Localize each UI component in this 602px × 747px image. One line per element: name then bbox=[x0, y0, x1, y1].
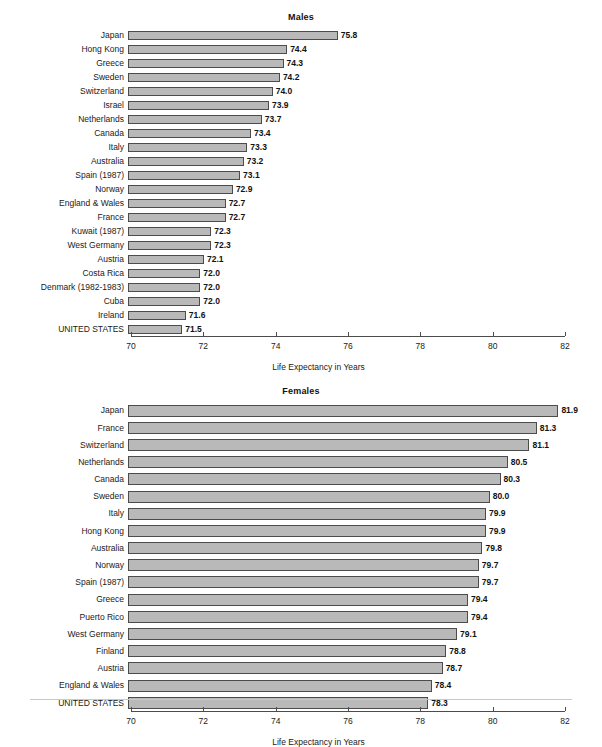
bar-row: Spain (1987)79.7 bbox=[0, 574, 602, 591]
bar-cell: 75.8 bbox=[128, 31, 602, 40]
bar-category-label: West Germany bbox=[0, 241, 128, 250]
bar-row: Italy79.9 bbox=[0, 505, 602, 522]
bar-row: Norway79.7 bbox=[0, 557, 602, 574]
bar-row: Austria72.1 bbox=[0, 252, 602, 266]
bar-value-label: 72.0 bbox=[203, 269, 220, 278]
bar bbox=[128, 611, 468, 623]
bar-cell: 72.0 bbox=[128, 297, 602, 306]
x-axis-title-females: Life Expectancy in Years bbox=[0, 737, 602, 747]
bar-cell: 79.1 bbox=[128, 628, 602, 640]
bar-category-label: England & Wales bbox=[0, 681, 128, 690]
bar-row: West Germany79.1 bbox=[0, 625, 602, 642]
bar-value-label: 79.4 bbox=[471, 595, 488, 604]
bar-category-label: Costa Rica bbox=[0, 269, 128, 278]
bar-category-label: Kuwait (1987) bbox=[0, 227, 128, 236]
bar-cell: 80.3 bbox=[128, 473, 602, 485]
bar-cell: 80.5 bbox=[128, 456, 602, 468]
bar bbox=[128, 628, 457, 640]
bar bbox=[128, 594, 468, 606]
bar bbox=[128, 45, 287, 54]
bar-cell: 73.7 bbox=[128, 115, 602, 124]
chart-title-males: Males bbox=[0, 12, 602, 22]
bar bbox=[128, 241, 211, 250]
bar-cell: 78.8 bbox=[128, 645, 602, 657]
bar-category-label: Canada bbox=[0, 475, 128, 484]
bar-cell: 74.3 bbox=[128, 59, 602, 68]
bar-row: Switzerland74.0 bbox=[0, 84, 602, 98]
axis-tick-label: 80 bbox=[488, 716, 497, 726]
x-axis-females: 70727476788082 bbox=[0, 711, 602, 737]
bar bbox=[128, 283, 200, 292]
axis-tick bbox=[565, 707, 566, 711]
chart-title-females: Females bbox=[0, 386, 602, 396]
bar-row: Netherlands80.5 bbox=[0, 454, 602, 471]
axis-tick-label: 76 bbox=[343, 716, 352, 726]
x-axis-males: 70727476788082 bbox=[0, 336, 602, 362]
bar-category-label: Greece bbox=[0, 59, 128, 68]
bar-category-label: Greece bbox=[0, 595, 128, 604]
bar bbox=[128, 576, 479, 588]
bar-value-label: 73.9 bbox=[272, 101, 289, 110]
bar-cell: 74.4 bbox=[128, 45, 602, 54]
bar-value-label: 75.8 bbox=[341, 31, 358, 40]
bar bbox=[128, 525, 486, 537]
bar-category-label: Italy bbox=[0, 143, 128, 152]
bar bbox=[128, 325, 182, 334]
bar-row: UNITED STATES78.3 bbox=[0, 694, 602, 711]
bar-cell: 74.2 bbox=[128, 73, 602, 82]
bar-value-label: 78.8 bbox=[449, 647, 466, 656]
bar bbox=[128, 255, 204, 264]
axis-tick bbox=[203, 707, 204, 711]
bar-cell: 71.6 bbox=[128, 311, 602, 320]
bar bbox=[128, 31, 338, 40]
bar-category-label: France bbox=[0, 424, 128, 433]
axis-tick-label: 74 bbox=[271, 716, 280, 726]
bar-cell: 81.1 bbox=[128, 439, 602, 451]
bar bbox=[128, 508, 486, 520]
bar-cell: 73.1 bbox=[128, 171, 602, 180]
bar-row: Canada80.3 bbox=[0, 471, 602, 488]
bar-category-label: Ireland bbox=[0, 311, 128, 320]
bar-value-label: 74.0 bbox=[276, 87, 293, 96]
bar-row: Norway72.9 bbox=[0, 182, 602, 196]
axis-tick bbox=[420, 332, 421, 336]
bar-row: Ireland71.6 bbox=[0, 308, 602, 322]
bar-category-label: France bbox=[0, 213, 128, 222]
bar-value-label: 81.9 bbox=[561, 406, 578, 415]
bar-cell: 73.2 bbox=[128, 157, 602, 166]
footer-divider bbox=[30, 699, 572, 700]
bar bbox=[128, 185, 233, 194]
x-axis-title-males: Life Expectancy in Years bbox=[0, 362, 602, 372]
bar-row: Denmark (1982-1983)72.0 bbox=[0, 280, 602, 294]
bar-row: Australia73.2 bbox=[0, 154, 602, 168]
bar-row: Austria78.7 bbox=[0, 660, 602, 677]
bar bbox=[128, 199, 226, 208]
axis-tick-label: 78 bbox=[416, 716, 425, 726]
bar bbox=[128, 101, 269, 110]
bar-row: Costa Rica72.0 bbox=[0, 266, 602, 280]
bar bbox=[128, 59, 284, 68]
axis-tick bbox=[131, 332, 132, 336]
bar-category-label: Puerto Rico bbox=[0, 613, 128, 622]
bar-value-label: 71.5 bbox=[185, 325, 202, 334]
bar-value-label: 78.4 bbox=[435, 681, 452, 690]
bar-value-label: 78.7 bbox=[446, 664, 463, 673]
bar-value-label: 72.0 bbox=[203, 297, 220, 306]
bar-category-label: Japan bbox=[0, 406, 128, 415]
axis-tick bbox=[131, 707, 132, 711]
bar-row: Kuwait (1987)72.3 bbox=[0, 224, 602, 238]
bar-category-label: Hong Kong bbox=[0, 527, 128, 536]
axis-tick bbox=[565, 332, 566, 336]
bar-category-label: Austria bbox=[0, 255, 128, 264]
bar-category-label: West Germany bbox=[0, 630, 128, 639]
bar bbox=[128, 559, 479, 571]
bar bbox=[128, 311, 186, 320]
bar-row: France81.3 bbox=[0, 419, 602, 436]
bar-cell: 72.9 bbox=[128, 185, 602, 194]
bar-row: West Germany72.3 bbox=[0, 238, 602, 252]
bar-value-label: 72.3 bbox=[214, 227, 231, 236]
bar bbox=[128, 491, 490, 503]
bar-row: Switzerland81.1 bbox=[0, 436, 602, 453]
axis-tick bbox=[493, 332, 494, 336]
plot-area-males: Japan75.8Hong Kong74.4Greece74.3Sweden74… bbox=[0, 28, 602, 336]
